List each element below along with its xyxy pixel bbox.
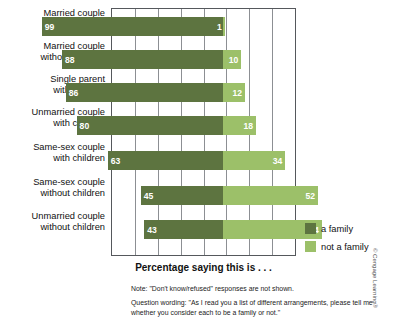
category-label-line1: Unmarried couple (0, 211, 105, 222)
chart-note: Note: "Don't know/refused" responses are… (131, 284, 381, 293)
bar-value-a-family: 99 (42, 22, 58, 32)
category-label: Unmarried couplewithout children (0, 211, 105, 233)
bar-segment-a-family: 45 (141, 186, 223, 205)
category-label-line2: without children (0, 188, 105, 199)
chart-notes: Note: "Don't know/refused" responses are… (131, 284, 381, 322)
bar-row: 6334 (112, 151, 295, 170)
bar-segment-a-family: 80 (77, 116, 223, 135)
bar-row: 991 (112, 17, 295, 36)
bar-segment-a-family: 43 (144, 220, 223, 239)
bar-value-not-a-family: 10 (226, 55, 242, 65)
bar-value-a-family: 43 (144, 225, 160, 235)
bar-segment-not-a-family: 1 (223, 17, 225, 36)
legend-swatch-icon (305, 241, 316, 252)
category-label-line1: Same-sex couple (0, 142, 105, 153)
bar-segment-not-a-family: 18 (223, 116, 256, 135)
category-label: Same-sex couplewithout children (0, 177, 105, 199)
bar-segment-not-a-family: 12 (223, 83, 245, 102)
copyright-credit: © Cengage Learning® (372, 248, 378, 308)
bar-value-not-a-family: 34 (270, 156, 286, 166)
category-label-line2: without children (0, 222, 105, 233)
bar-value-a-family: 63 (108, 156, 124, 166)
bar-value-a-family: 80 (77, 121, 93, 131)
bar-segment-a-family: 88 (62, 50, 223, 69)
bar-segment-not-a-family: 52 (223, 186, 318, 205)
bar-segment-a-family: 86 (66, 83, 223, 102)
bar-value-a-family: 86 (66, 88, 82, 98)
bar-value-not-a-family: 18 (240, 121, 256, 131)
bar-segment-a-family: 63 (108, 151, 223, 170)
legend-swatch-icon (305, 223, 316, 234)
bar-row: 8018 (112, 116, 295, 135)
bar-row: 8810 (112, 50, 295, 69)
bar-value-a-family: 45 (141, 191, 157, 201)
legend-item[interactable]: not a family (305, 241, 393, 252)
bar-rows: 991881086128018633445524354 (112, 9, 295, 255)
category-label: Same-sex couplewith children (0, 142, 105, 164)
axis-title: Percentage saying this is . . . (111, 262, 296, 273)
bar-segment-a-family: 99 (42, 17, 223, 36)
category-label-line2: with children (0, 153, 105, 164)
chart-note: Question wording: "As I read you a list … (131, 298, 381, 317)
legend-label: not a family (321, 242, 369, 252)
bar-row: 4552 (112, 186, 295, 205)
chart-legend: a familynot a family (305, 223, 393, 259)
bar-value-not-a-family: 52 (303, 191, 319, 201)
bar-value-not-a-family: 12 (229, 88, 245, 98)
bar-segment-not-a-family: 34 (223, 151, 285, 170)
category-label-line1: Same-sex couple (0, 177, 105, 188)
bar-value-not-a-family: 1 (214, 22, 225, 32)
legend-label: a family (321, 224, 353, 234)
chart-container: Married couplewith childrenMarried coupl… (0, 0, 396, 330)
legend-item[interactable]: a family (305, 223, 393, 234)
plot-area: 991881086128018633445524354 (111, 8, 296, 256)
bar-row: 4354 (112, 220, 295, 239)
bar-segment-not-a-family: 10 (223, 50, 241, 69)
bar-value-a-family: 88 (62, 55, 78, 65)
bar-row: 8612 (112, 83, 295, 102)
